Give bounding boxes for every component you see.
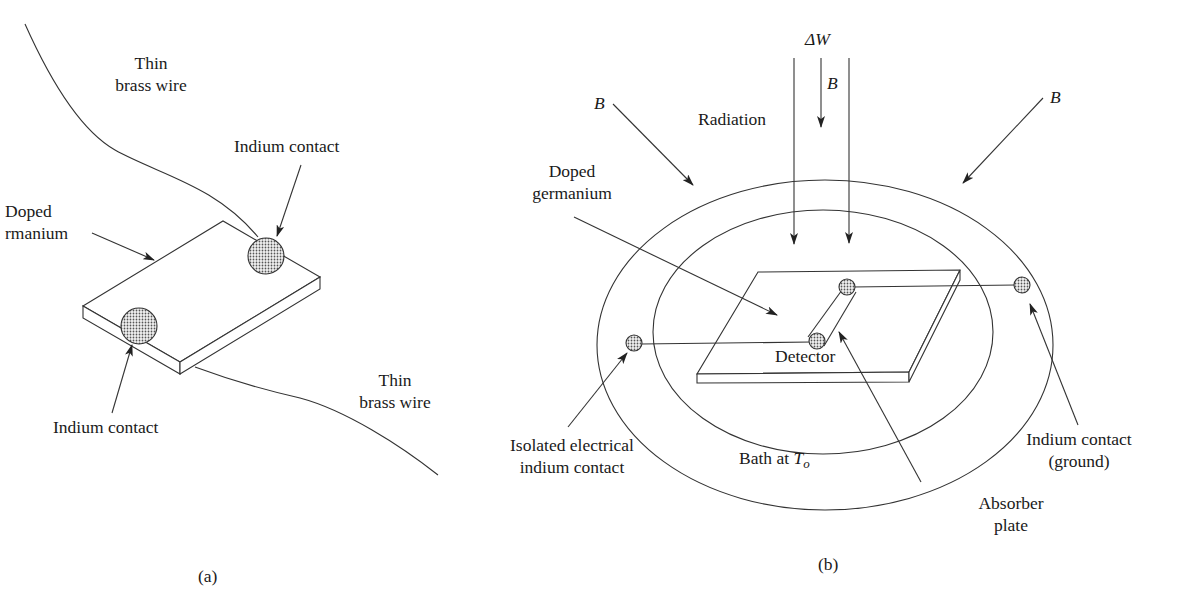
arrow-indium-bottom xyxy=(112,345,132,413)
label-line: Isolated electrical xyxy=(482,434,662,456)
arrow-ground-contact xyxy=(1030,304,1078,425)
isolated-contact-dot xyxy=(626,335,642,351)
arrow-doped-b xyxy=(574,217,777,315)
indium-contact-top-dot xyxy=(248,238,284,274)
caption-a: (a) xyxy=(198,565,217,587)
label-line: brass wire xyxy=(340,391,450,413)
caption-b: (b) xyxy=(818,553,838,575)
absorber-plate-front xyxy=(697,372,909,383)
contact-detector-top xyxy=(839,279,855,295)
indium-contact-bottom-dot xyxy=(121,308,157,344)
label-line: Indium contact xyxy=(1009,428,1149,450)
label-line: Thin xyxy=(340,369,450,391)
label-b-left: B xyxy=(594,92,605,114)
label-b-right: B xyxy=(1050,86,1061,108)
label-doped-germanium-a: Doped rmanium xyxy=(5,200,68,244)
label-line: rmanium xyxy=(5,222,68,244)
germanium-plate-top xyxy=(83,221,320,362)
label-b-center: B xyxy=(827,72,838,94)
arrow-doped-a xyxy=(92,233,154,260)
label-thin-brass-wire-top: Thin brass wire xyxy=(86,52,216,96)
label-radiation: Radiation xyxy=(698,108,766,130)
label-line: Thin xyxy=(86,52,216,74)
label-indium-contact-ground: Indium contact (ground) xyxy=(1009,428,1149,472)
b-arrow-right xyxy=(963,98,1043,183)
label-line: Doped xyxy=(5,200,68,222)
label-detector: Detector xyxy=(775,345,835,367)
label-thin-brass-wire-bottom: Thin brass wire xyxy=(340,369,450,413)
label-line: indium contact xyxy=(482,456,662,478)
label-line: Doped xyxy=(512,160,632,182)
label-absorber-plate: Absorber plate xyxy=(966,492,1056,536)
label-isolated-contact: Isolated electrical indium contact xyxy=(482,434,662,478)
label-delta-w: ΔW xyxy=(805,28,830,50)
label-indium-contact-bottom: Indium contact xyxy=(53,416,158,438)
bath-variable: T xyxy=(793,448,803,468)
label-line: plate xyxy=(966,514,1056,536)
bath-text: Bath at xyxy=(739,448,793,468)
ground-contact-dot xyxy=(1014,277,1030,293)
label-line: Absorber xyxy=(966,492,1056,514)
label-line: (ground) xyxy=(1009,450,1149,472)
label-bath: Bath at To xyxy=(739,447,810,475)
label-line: germanium xyxy=(512,182,632,204)
arrow-isolated-contact xyxy=(568,353,627,427)
bath-subscript: o xyxy=(803,456,810,471)
arrow-indium-top xyxy=(277,165,301,236)
label-indium-contact-top: Indium contact xyxy=(234,135,339,157)
label-line: brass wire xyxy=(86,74,216,96)
label-doped-germanium-b: Doped germanium xyxy=(512,160,632,204)
